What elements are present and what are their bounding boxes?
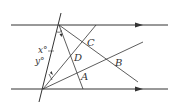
geometry-diagram: x° y° C D B A <box>0 0 182 107</box>
angle-y-arrow-icon <box>50 71 53 75</box>
angle-x-label: x° <box>38 45 48 55</box>
point-A-label: A <box>80 71 88 82</box>
angle-x-arc <box>57 30 61 32</box>
angle-y-label: y° <box>34 56 45 66</box>
point-B-label: B <box>114 57 122 68</box>
point-C-label: C <box>87 37 95 48</box>
bottom-arrow-icon <box>135 87 143 92</box>
point-D-label: D <box>73 52 82 63</box>
line-P-to-B <box>59 25 138 82</box>
top-arrow-icon <box>135 23 143 28</box>
angle-x-arrow-icon <box>60 34 63 38</box>
angle-y-arc <box>49 74 52 80</box>
